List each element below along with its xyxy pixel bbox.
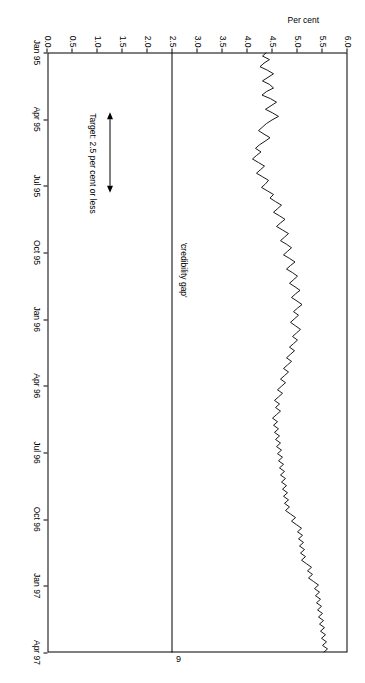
y-tick-mark (346, 48, 347, 52)
y-tick-mark (221, 48, 222, 52)
x-tick-mark (43, 585, 47, 586)
y-axis-label: Per cent (287, 14, 319, 24)
target-label: Target: 2.5 per cent or less (88, 113, 98, 214)
x-tick-mark (43, 185, 47, 186)
credibility-gap-label: 'credibility gap' (178, 242, 188, 297)
x-tick-mark (43, 319, 47, 320)
y-tick-mark (121, 48, 122, 52)
x-tick-mark (43, 119, 47, 120)
y-tick-mark (146, 48, 147, 52)
y-tick-mark (96, 48, 97, 52)
x-tick-mark (43, 385, 47, 386)
y-tick-mark (271, 48, 272, 52)
x-tick-mark (43, 519, 47, 520)
y-tick-mark (321, 48, 322, 52)
y-tick-mark (71, 48, 72, 52)
x-tick-mark (43, 52, 47, 53)
y-tick-mark (296, 48, 297, 52)
y-tick-mark (246, 48, 247, 52)
x-tick-mark (43, 652, 47, 653)
y-tick-mark (196, 48, 197, 52)
y-tick-mark (171, 48, 172, 52)
x-tick-mark (43, 452, 47, 453)
page-number: 9 (176, 654, 181, 664)
x-tick-mark (43, 252, 47, 253)
chart-plot-area: 0.00.51.01.52.02.53.03.54.04.55.05.56.0 … (47, 52, 347, 652)
